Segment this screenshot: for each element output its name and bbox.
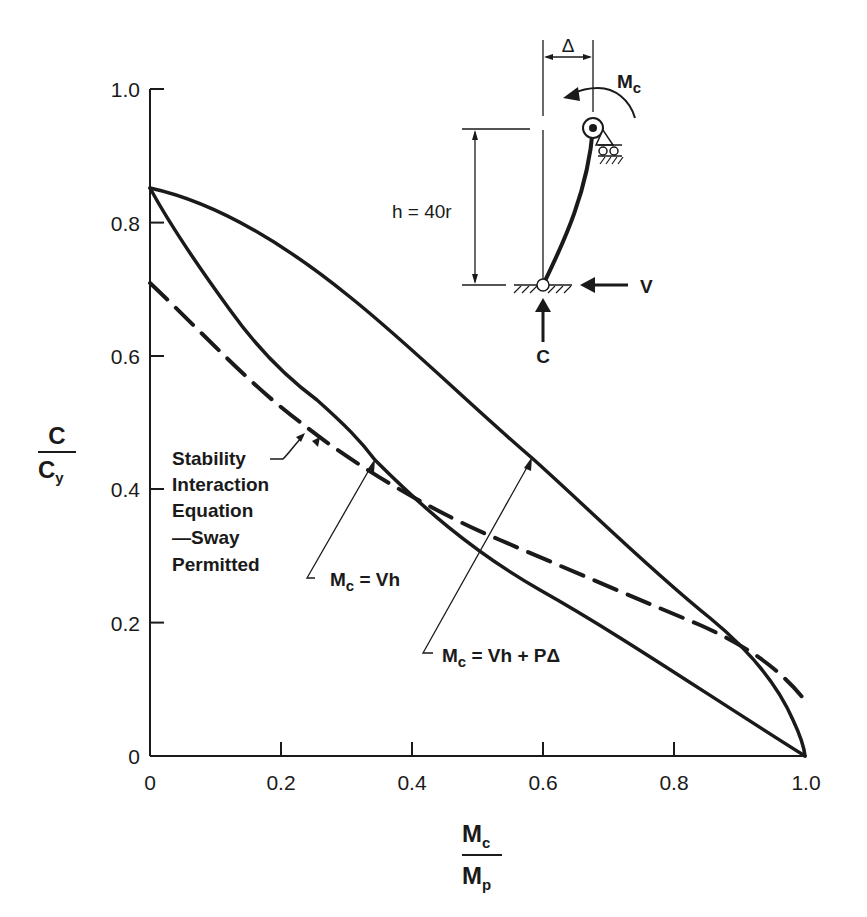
x-tick-label: 1.0 — [791, 771, 820, 794]
stability-label-line: Permitted — [172, 554, 260, 575]
y-tick-labels: 1.0 0.8 0.6 0.4 0.2 0 — [111, 78, 141, 768]
stability-annotation: Stability Interaction Equation —Sway Per… — [172, 433, 320, 575]
stability-leader — [270, 436, 303, 459]
base-pin-icon — [537, 279, 549, 291]
y-tick-label: 0 — [128, 745, 140, 768]
stability-label-line: Interaction — [172, 474, 269, 495]
stability-label-line: Equation — [172, 500, 253, 521]
arrowhead-icon — [472, 274, 478, 284]
c-label: C — [536, 346, 550, 367]
x-tick-label: 0.8 — [659, 771, 688, 794]
delta-label: Δ — [562, 35, 575, 56]
y-title-numerator: C — [48, 422, 65, 449]
arrowhead-icon — [544, 54, 553, 60]
y-axis-title: C Cy — [38, 422, 76, 486]
arrowhead-icon — [524, 457, 532, 471]
moment-arrowhead-icon — [563, 87, 580, 101]
stability-label-line: —Sway — [172, 527, 240, 548]
chart-canvas: 1.0 0.8 0.6 0.4 0.2 0 0 0.2 0.4 0.6 0.8 … — [0, 0, 867, 917]
column-inset-diagram: Δ Mc h = 40r V C — [392, 35, 653, 367]
vh-label: Mc = Vh — [330, 569, 400, 594]
y-tick-label: 0.6 — [111, 345, 140, 368]
mc-label: Mc — [617, 71, 641, 96]
x-title-num: Mc — [462, 820, 490, 851]
y-tick-label: 0.4 — [111, 478, 141, 501]
c-force-arrow-icon — [535, 298, 551, 312]
vhp-label: Mc = Vh + PΔ — [442, 645, 560, 670]
curve-vh-plus-pdelta — [150, 188, 805, 756]
x-tick-labels: 0 0.2 0.4 0.6 0.8 1.0 — [144, 771, 820, 794]
vhp-leader — [423, 462, 530, 653]
x-tick-label: 0.6 — [528, 771, 557, 794]
x-tick-label: 0.4 — [397, 771, 427, 794]
v-force-arrow-icon — [580, 277, 595, 293]
y-tick-label: 1.0 — [111, 78, 140, 101]
y-tick-label: 0.2 — [111, 612, 140, 635]
vh-leader — [307, 463, 373, 578]
curve-vh — [150, 188, 805, 756]
y-title-denominator: Cy — [38, 456, 64, 486]
v-label: V — [640, 276, 653, 297]
curves — [150, 188, 807, 756]
vhp-annotation: Mc = Vh + PΔ — [423, 457, 560, 670]
x-tick-label: 0.2 — [266, 771, 295, 794]
height-label: h = 40r — [392, 201, 452, 222]
column-member — [543, 128, 593, 285]
x-tick-label: 0 — [144, 771, 156, 794]
arrowhead-icon — [583, 54, 592, 60]
arrowhead-icon — [472, 130, 478, 140]
y-tick-label: 0.8 — [111, 212, 140, 235]
arrowhead-icon — [296, 433, 305, 442]
x-title-den: Mp — [462, 862, 491, 893]
arrowhead-icon — [312, 437, 320, 447]
stability-label-line: Stability — [172, 448, 246, 469]
x-axis-title: c Mc Mp — [462, 820, 502, 893]
